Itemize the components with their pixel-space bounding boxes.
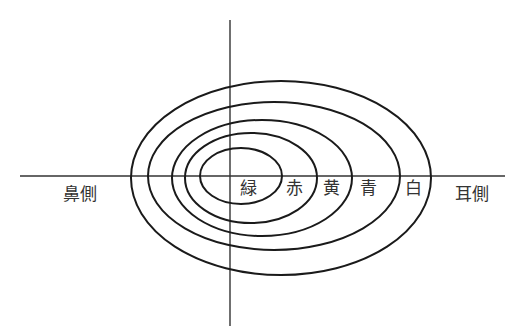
isopter-group (131, 81, 431, 275)
isopter-label-red: 赤 (286, 180, 303, 197)
isopter-label-green: 緑 (240, 180, 257, 197)
isopter-label-blue: 青 (360, 180, 377, 197)
nasal-side-label: 鼻側 (63, 186, 97, 203)
isopter-label-yellow: 黄 (323, 180, 340, 197)
isopter-label-white: 白 (405, 180, 422, 197)
visual-field-diagram: 鼻側 耳側 緑 赤 黄 青 白 (0, 0, 526, 334)
isopter-chart (0, 0, 526, 334)
temporal-side-label: 耳側 (455, 186, 489, 203)
